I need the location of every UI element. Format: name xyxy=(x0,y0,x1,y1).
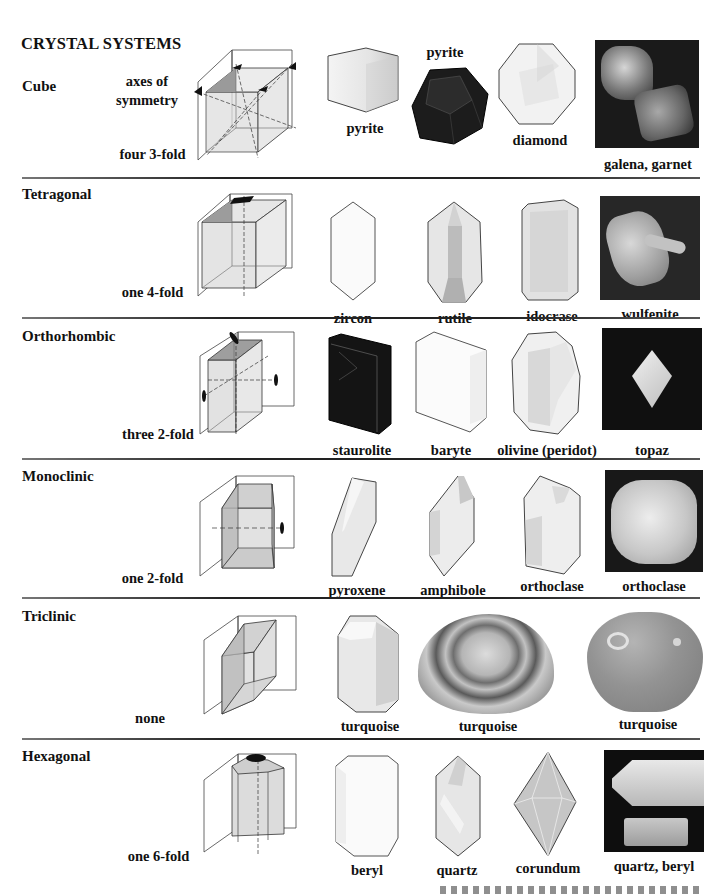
row-orthorhombic: Orthorhombic three 2-fold staurolite bar… xyxy=(0,320,725,460)
wulfenite-photo xyxy=(600,196,700,300)
row-monoclinic: Monoclinic one 2-fold pyroxene amphibole… xyxy=(0,460,725,600)
triclinic-symmetry-diagram xyxy=(202,614,298,718)
symmetry-label: four 3-fold xyxy=(110,146,195,163)
axes-of-symmetry-label: axes of symmetry xyxy=(112,72,182,110)
row-tetragonal: Tetragonal one 4-fold zircon rutile idoc… xyxy=(0,180,725,320)
section-divider xyxy=(22,597,700,599)
specimen-label: diamond xyxy=(500,132,580,149)
specimen-label: baryte xyxy=(412,442,490,459)
row-triclinic: Triclinic none turquoise turquoise turqu… xyxy=(0,600,725,740)
symmetry-label: three 2-fold xyxy=(108,426,208,443)
system-name: Triclinic xyxy=(22,608,76,625)
pyrite-dodecahedron-drawing xyxy=(410,66,492,146)
galena-garnet-photo xyxy=(595,40,699,148)
orthoclase-photo xyxy=(605,470,703,572)
diamond-drawing xyxy=(497,42,577,126)
row-hexagonal: Hexagonal one 6-fold beryl quartz corund… xyxy=(0,740,725,880)
topaz-photo xyxy=(602,328,702,430)
specimen-label: orthoclase xyxy=(512,578,592,595)
symmetry-label: none xyxy=(120,710,180,727)
pyrite-cube-drawing xyxy=(326,46,400,114)
tetragonal-symmetry-diagram xyxy=(196,192,296,298)
symmetry-label: one 2-fold xyxy=(110,570,195,587)
beryl-drawing xyxy=(334,754,400,858)
specimen-label: turquoise xyxy=(598,716,698,733)
pyroxene-drawing xyxy=(330,476,380,580)
staurolite-drawing xyxy=(327,332,393,436)
turquoise-cabochon-photo xyxy=(587,612,703,712)
idocrase-drawing xyxy=(520,198,580,302)
system-name: Cube xyxy=(22,78,56,95)
specimen-label: turquoise xyxy=(330,718,410,735)
system-name: Monoclinic xyxy=(22,468,94,485)
corundum-drawing xyxy=(512,750,578,858)
monoclinic-symmetry-diagram xyxy=(198,474,298,580)
specimen-label: olivine (peridot) xyxy=(494,442,600,459)
system-name: Tetragonal xyxy=(22,186,91,203)
specimen-label: pyrite xyxy=(410,44,480,61)
hexagonal-symmetry-diagram xyxy=(202,750,298,856)
rutile-drawing xyxy=(426,200,484,304)
specimen-label: staurolite xyxy=(322,442,402,459)
specimen-label: quartz, beryl xyxy=(596,858,712,875)
section-divider xyxy=(22,177,700,179)
specimen-label: galena, garnet xyxy=(585,156,711,173)
specimen-label: orthoclase xyxy=(600,578,708,595)
specimen-label: turquoise xyxy=(440,718,536,735)
specimen-label: topaz xyxy=(602,442,702,459)
quartz-drawing xyxy=(434,754,482,858)
turquoise-crystal-drawing xyxy=(336,614,402,714)
olivine-drawing xyxy=(510,330,582,436)
system-name: Orthorhombic xyxy=(22,328,115,345)
system-name: Hexagonal xyxy=(22,748,90,765)
baryte-drawing xyxy=(414,330,488,434)
amphibole-drawing xyxy=(428,474,476,578)
specimen-label: quartz xyxy=(422,862,492,879)
cropped-caption-text xyxy=(440,886,700,894)
quartz-beryl-photo xyxy=(604,750,704,852)
zircon-drawing xyxy=(329,200,377,302)
row-cube: Cube axes of symmetry four 3-fold pyrite… xyxy=(0,38,725,178)
specimen-label: corundum xyxy=(508,860,588,877)
specimen-label: pyrite xyxy=(330,120,400,137)
cube-symmetry-diagram xyxy=(192,46,304,161)
turquoise-pebble-photo xyxy=(418,614,554,714)
section-divider xyxy=(22,317,700,319)
symmetry-label: one 4-fold xyxy=(110,284,195,301)
symmetry-label: one 6-fold xyxy=(116,848,201,865)
specimen-label: beryl xyxy=(332,862,402,879)
orthorhombic-symmetry-diagram xyxy=(198,330,300,438)
orthoclase-drawing xyxy=(522,474,582,578)
